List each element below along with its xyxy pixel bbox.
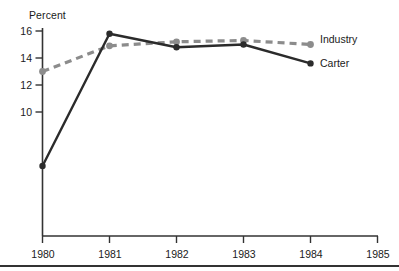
y-tick-label-10: 10 [10, 106, 32, 118]
bottom-divider [0, 265, 399, 267]
x-tick-label-1983: 1983 [219, 248, 269, 260]
x-tick-label-1984: 1984 [286, 248, 336, 260]
y-axis-title: Percent [29, 9, 66, 21]
data-point-carter-1980 [39, 163, 45, 169]
x-tick-label-1981: 1981 [85, 248, 135, 260]
x-tick-label-1982: 1982 [152, 248, 202, 260]
data-point-carter-1984 [307, 60, 313, 66]
x-tick-label-1980: 1980 [18, 248, 68, 260]
x-tick-label-1985: 1985 [353, 248, 399, 260]
chart-figure: Percent 16 14 12 10 1980 1981 1982 1983 … [0, 0, 399, 271]
y-tick-label-12: 12 [10, 79, 32, 91]
y-tick-label-16: 16 [10, 25, 32, 37]
legend-label-carter: Carter [320, 57, 349, 69]
data-point-carter-1983 [240, 41, 246, 47]
y-tick-label-14: 14 [10, 52, 32, 64]
legend-label-industry: Industry [320, 33, 357, 45]
data-point-carter-1981 [106, 31, 112, 37]
data-point-industry-1981 [106, 42, 113, 49]
data-point-industry-1984 [307, 41, 314, 48]
series-line-carter [43, 34, 311, 166]
series-markers-carter [39, 31, 313, 170]
data-point-industry-1980 [39, 68, 46, 75]
data-point-carter-1982 [173, 44, 179, 50]
